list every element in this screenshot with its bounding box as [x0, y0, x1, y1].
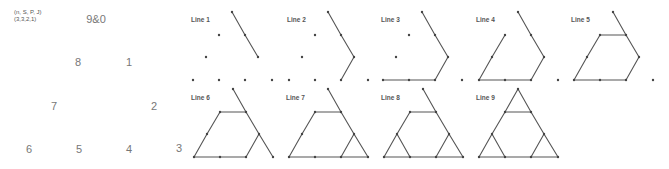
segment-line [531, 35, 544, 57]
grid-dot [543, 56, 545, 58]
grid-dot [218, 79, 220, 81]
grid-dot [383, 156, 385, 158]
segment-line [232, 12, 245, 35]
grid-dot [382, 79, 384, 81]
segment-line [531, 57, 544, 80]
line-panel [192, 11, 273, 81]
grid-dot [244, 79, 246, 81]
grid-dot [530, 111, 532, 113]
grid-dot [434, 34, 436, 36]
segment-line [354, 134, 368, 157]
segment-line [626, 35, 639, 57]
grid-dot [314, 156, 316, 158]
grid-dot [353, 56, 355, 58]
line-panel [573, 11, 654, 81]
grid-dot [327, 88, 329, 90]
grid-dot [599, 79, 601, 81]
grid-dot [409, 156, 411, 158]
grid-dot [288, 79, 290, 81]
segment-line [626, 57, 639, 80]
grid-dot [219, 111, 221, 113]
line-panel [288, 88, 369, 158]
grid-dot [219, 156, 221, 158]
segment-line [194, 134, 207, 157]
segment-line [436, 112, 449, 134]
grid-dot [625, 79, 627, 81]
segment-line [436, 134, 449, 157]
grid-dot [478, 79, 480, 81]
line-panels [0, 0, 669, 169]
segment-line [531, 112, 544, 134]
grid-dot [530, 156, 532, 158]
grid-dot [543, 133, 545, 135]
segment-line [492, 134, 505, 157]
segment-line [587, 35, 600, 57]
grid-dot [421, 11, 423, 13]
grid-dot [244, 34, 246, 36]
grid-dot [245, 156, 247, 158]
grid-dot [395, 56, 397, 58]
grid-dot [435, 111, 437, 113]
segment-line [246, 112, 259, 134]
grid-dot [586, 56, 588, 58]
grid-dot [530, 34, 532, 36]
segment-line [328, 89, 341, 112]
grid-dot [232, 88, 234, 90]
segment-line [245, 35, 258, 57]
segment-line [397, 134, 410, 157]
segment-line [574, 57, 587, 80]
grid-dot [504, 156, 506, 158]
segment-line [505, 89, 518, 112]
grid-dot [340, 111, 342, 113]
grid-dot [272, 156, 274, 158]
segment-line [341, 35, 354, 57]
grid-dot [340, 79, 342, 81]
grid-dot [314, 111, 316, 113]
segment-line [259, 134, 273, 157]
grid-dot [573, 79, 575, 81]
grid-dot [422, 88, 424, 90]
grid-dot [599, 34, 601, 36]
grid-dot [396, 133, 398, 135]
segment-line [492, 35, 505, 57]
segment-line [544, 134, 558, 157]
segment-line [233, 89, 246, 112]
grid-dot [314, 34, 316, 36]
grid-dot [557, 79, 559, 81]
grid-dot [193, 156, 195, 158]
segment-line [289, 134, 302, 157]
grid-dot [491, 133, 493, 135]
grid-dot [301, 133, 303, 135]
grid-dot [206, 133, 208, 135]
grid-dot [192, 79, 194, 81]
grid-dot [530, 79, 532, 81]
segment-line [341, 112, 354, 134]
line-panel [478, 11, 559, 81]
grid-dot [301, 56, 303, 58]
grid-dot [462, 156, 464, 158]
grid-dot [340, 156, 342, 158]
segment-line [531, 134, 544, 157]
grid-dot [517, 11, 519, 13]
grid-dot [258, 133, 260, 135]
grid-dot [652, 79, 654, 81]
segment-line [207, 112, 220, 134]
line-panel [288, 11, 369, 81]
grid-dot [504, 111, 506, 113]
grid-dot [408, 34, 410, 36]
grid-dot [245, 111, 247, 113]
grid-dot [353, 133, 355, 135]
segment-line [613, 12, 626, 35]
segment-line [302, 112, 315, 134]
segment-line [341, 134, 354, 157]
grid-dot [288, 156, 290, 158]
grid-dot [448, 133, 450, 135]
segment-line [435, 57, 448, 80]
segment-line [449, 134, 463, 157]
line-panel [193, 88, 274, 158]
segment-line [435, 35, 448, 57]
grid-dot [517, 88, 519, 90]
grid-dot [557, 156, 559, 158]
segment-line [492, 112, 505, 134]
grid-dot [491, 56, 493, 58]
